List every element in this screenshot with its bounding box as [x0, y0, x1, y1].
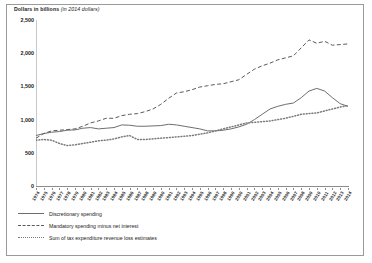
chart-axis-title-bold: Dollars in billions	[14, 6, 59, 12]
legend-line-marker	[18, 213, 44, 216]
legend-label: Discretionary spending	[49, 208, 102, 220]
series-line	[36, 88, 348, 135]
series-line	[36, 40, 348, 138]
y-axis-tick-label: 1,000	[21, 117, 35, 123]
x-axis-line	[36, 186, 349, 187]
chart-figure: Dollars in billions (in 2014 dollars) 05…	[0, 0, 372, 263]
y-axis-labels: 05001,0001,5002,0002,500	[6, 14, 34, 192]
legend-item: Discretionary spending	[18, 208, 318, 220]
legend-label: Sum of tax expenditure revenue loss esti…	[49, 232, 157, 244]
chart-axis-title: Dollars in billions (in 2014 dollars)	[14, 6, 100, 12]
legend-line-marker	[18, 225, 44, 228]
legend-item: Sum of tax expenditure revenue loss esti…	[18, 232, 318, 244]
legend-label: Mandatory spending minus net interest	[49, 220, 138, 232]
y-axis-tick-label: 1,500	[21, 83, 35, 89]
chart-legend: Discretionary spendingMandatory spending…	[18, 208, 318, 244]
y-axis-tick-label: 500	[25, 150, 34, 156]
plot-area	[36, 20, 348, 186]
y-axis-tick-label: 0	[31, 183, 34, 189]
legend-line-marker	[18, 237, 44, 240]
y-axis-tick-label: 2,000	[21, 50, 35, 56]
legend-item: Mandatory spending minus net interest	[18, 220, 318, 232]
series-line	[36, 106, 348, 146]
chart-axis-title-italic: (in 2014 dollars)	[61, 6, 100, 12]
y-axis-tick-label: 2,500	[21, 17, 35, 23]
